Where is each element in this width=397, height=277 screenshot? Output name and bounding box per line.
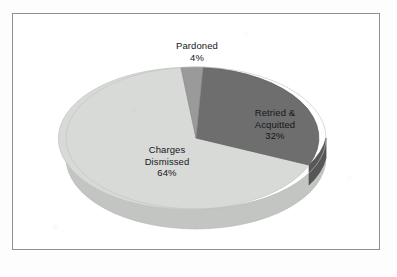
pie-label-retried-acquitted-name-line1: Retried & — [219, 107, 331, 119]
pie-label-charges-dismissed-name-line1: Charges — [111, 144, 223, 156]
pie-label-charges-dismissed: Charges Dismissed 64% — [111, 144, 223, 179]
pie-label-charges-dismissed-value: 64% — [111, 167, 223, 179]
pie-label-charges-dismissed-name-line2: Dismissed — [111, 156, 223, 168]
pie-label-pardoned: Pardoned 4% — [141, 40, 253, 63]
pie-label-pardoned-value: 4% — [141, 52, 253, 64]
pie-label-pardoned-name: Pardoned — [141, 40, 253, 52]
pie-label-retried-acquitted: Retried & Acquitted 32% — [219, 107, 331, 142]
pie-label-retried-acquitted-name-line2: Acquitted — [219, 119, 331, 131]
chart-page: Pardoned 4% Retried & Acquitted 32% Char… — [0, 0, 397, 277]
pie-label-retried-acquitted-value: 32% — [219, 130, 331, 142]
chart-frame: Pardoned 4% Retried & Acquitted 32% Char… — [12, 13, 380, 250]
